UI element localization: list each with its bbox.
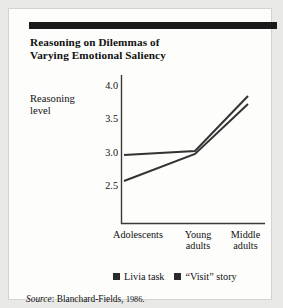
series-lines (124, 96, 248, 181)
line-chart-plot (0, 0, 283, 308)
chart-axes (121, 75, 265, 224)
series-line-livia-task (124, 96, 248, 155)
